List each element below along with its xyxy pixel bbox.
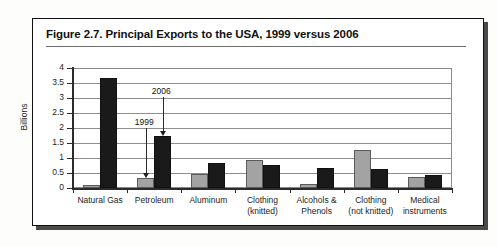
bar-1999-0 (83, 185, 100, 188)
x-tick-mark (127, 188, 128, 193)
gridline (74, 143, 451, 144)
y-tick-mark (67, 83, 73, 84)
x-tick-label: Clothing(not knitted) (340, 195, 402, 216)
y-tick-label: 3 (30, 93, 64, 101)
figure-page: Figure 2.7. Principal Exports to the USA… (0, 0, 498, 247)
gridline (74, 128, 451, 129)
x-tick-label: Alcohols &Phenols (286, 195, 348, 216)
annotation-arrowhead-1999 (143, 173, 149, 178)
x-tick-mark (452, 188, 453, 193)
x-tick-label: Aluminum (177, 195, 239, 206)
bar-2006-3 (263, 165, 280, 188)
bar-2006-2 (208, 163, 225, 188)
bar-1999-2 (191, 174, 208, 188)
x-tick-mark (290, 188, 291, 193)
bar-1999-6 (408, 177, 425, 188)
y-tick-mark (67, 128, 73, 129)
annotation-line-2006 (163, 97, 164, 132)
annotation-arrowhead-2006 (160, 131, 166, 136)
x-axis (72, 188, 453, 190)
y-axis-title: Billions (19, 87, 29, 147)
y-tick-mark (67, 98, 73, 99)
y-tick-label: 0.5 (30, 168, 64, 176)
x-tick-label: Medicalinstruments (394, 195, 456, 216)
bar-2006-6 (425, 175, 442, 189)
x-tick-mark (181, 188, 182, 193)
y-tick-label: 1.5 (30, 138, 64, 146)
y-tick-label: 4 (30, 63, 64, 71)
y-tick-label: 2 (30, 123, 64, 131)
x-tick-label: Petroleum (123, 195, 185, 206)
x-tick-mark (73, 188, 74, 193)
chart: Billions 00.511.522.533.54 Natural GasPe… (0, 0, 498, 247)
x-tick-label: Clothing(knitted) (231, 195, 293, 216)
annotation-label-2006: 2006 (152, 86, 171, 96)
x-tick-label: Natural Gas (69, 195, 131, 206)
y-tick-label: 2.5 (30, 108, 64, 116)
gridline (74, 113, 451, 114)
x-tick-mark (235, 188, 236, 193)
bar-2006-5 (371, 169, 388, 189)
gridline (74, 83, 451, 84)
y-tick-label: 0 (30, 183, 64, 191)
annotation-label-1999: 1999 (135, 117, 154, 127)
bar-1999-1 (137, 178, 154, 188)
y-tick-mark (67, 113, 73, 114)
x-tick-mark (344, 188, 345, 193)
bar-2006-0 (100, 78, 117, 188)
bar-2006-1 (154, 136, 171, 189)
y-tick-label: 3.5 (30, 78, 64, 86)
gridline (74, 98, 451, 99)
bar-1999-5 (354, 150, 371, 188)
bar-1999-4 (300, 184, 317, 188)
x-tick-mark (398, 188, 399, 193)
y-tick-mark (67, 158, 73, 159)
gridline (74, 158, 451, 159)
bar-1999-3 (246, 160, 263, 189)
y-tick-mark (67, 173, 73, 174)
y-tick-mark (67, 143, 73, 144)
y-tick-label: 1 (30, 153, 64, 161)
bar-2006-4 (317, 168, 334, 188)
annotation-line-1999 (146, 128, 147, 174)
y-tick-mark (67, 68, 73, 69)
